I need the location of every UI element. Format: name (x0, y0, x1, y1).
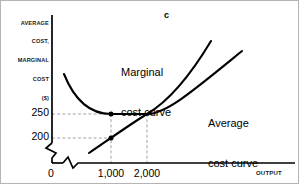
y-axis-break-mark (46, 143, 56, 163)
marginal-cost-label-line-1: Marginal (121, 66, 171, 79)
x-tick-label-2000: 2,000 (126, 168, 168, 180)
x-tick-label-0: 0 (44, 168, 58, 180)
y-axis-title-line-2: COST, (5, 38, 49, 44)
cost-curves-figure: AVERAGE COST, MARGINAL COST ($) c Margin… (0, 0, 299, 184)
marginal-cost-label-line-2: cost curve (121, 106, 171, 119)
y-axis-title-line-3: MARGINAL (5, 57, 49, 63)
y-tick-label-250: 250 (27, 107, 49, 119)
average-cost-curve-label: Average cost curve (208, 90, 258, 184)
marginal-cost-curve-label: Marginal cost curve (121, 39, 171, 146)
datapoint-min-average-cost (109, 112, 114, 117)
y-axis-title: AVERAGE COST, MARGINAL COST ($) (5, 7, 49, 113)
x-axis-title: OUTPUT (256, 170, 282, 177)
y-axis-title-line-4: COST (5, 76, 49, 82)
y-axis-title-line-1: AVERAGE (5, 20, 49, 26)
y-tick-label-200: 200 (27, 131, 49, 143)
average-cost-label-line-1: Average (208, 117, 258, 130)
average-cost-label-line-2: cost curve (208, 157, 258, 170)
y-axis-title-line-5: ($) (5, 95, 49, 101)
panel-label: c (164, 10, 169, 20)
datapoint-marginal-cost-1000 (109, 136, 114, 141)
x-axis-line (52, 157, 295, 168)
